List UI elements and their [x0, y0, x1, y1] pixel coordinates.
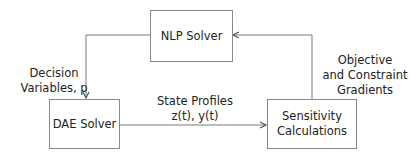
objective-label-line1: Objective [320, 53, 410, 68]
nlp-solver-box: NLP Solver [150, 10, 233, 62]
objective-label-line3: Gradients [320, 83, 410, 98]
decision-label-line1: Decision [18, 66, 90, 81]
sensitivity-label-line2: Calculations [277, 124, 347, 139]
dae-solver-box: DAE Solver [49, 99, 120, 149]
state-profiles-label: State Profiles z(t), y(t) [150, 94, 240, 124]
state-label-line1: State Profiles [150, 94, 240, 109]
edge-nlp-to-dae [86, 35, 150, 98]
nlp-solver-label: NLP Solver [161, 29, 223, 44]
state-label-line2: z(t), y(t) [150, 109, 240, 124]
objective-gradients-label: Objective and Constraint Gradients [320, 53, 410, 98]
objective-label-line2: and Constraint [320, 68, 410, 83]
sensitivity-calculations-box: Sensitivity Calculations [267, 99, 357, 149]
edge-sensitivity-to-nlp [233, 35, 312, 99]
sensitivity-label-line1: Sensitivity [282, 109, 342, 124]
decision-label-line2: Variables, p [18, 81, 90, 96]
decision-variables-label: Decision Variables, p [18, 66, 90, 96]
dae-solver-label: DAE Solver [53, 117, 117, 132]
